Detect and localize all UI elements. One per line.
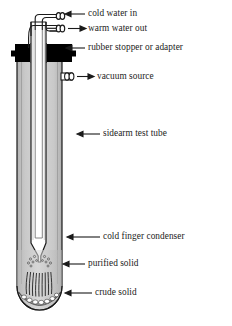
arrow-purified-solid [63,261,85,266]
arrow-vacuum-source [77,74,94,79]
label-sidearm-test-tube: sidearm test tube [103,129,167,138]
label-vacuum-source: vacuum source [97,72,154,81]
diagram-canvas: cold water in warm water out rubber stop… [0,0,232,326]
arrow-cold-finger-condenser [67,234,100,239]
label-purified-solid: purified solid [88,259,139,268]
arrow-sidearm-test-tube [77,131,100,136]
arrow-cold-water-in [65,11,85,16]
label-cold-water-in: cold water in [88,9,137,18]
label-warm-water-out: warm water out [88,24,147,33]
label-cold-finger-condenser: cold finger condenser [103,232,185,241]
arrow-warm-water-out [68,26,86,31]
warm-water-outlet-end [56,25,64,32]
cold-water-inlet-end [56,13,64,20]
label-rubber-stopper-or-adapter: rubber stopper or adapter [88,43,183,52]
arrow-rubber-stopper [66,45,85,50]
vacuum-sidearm-shape [61,73,74,80]
cold-finger-condenser-shape [31,22,46,262]
arrow-crude-solid [65,290,92,295]
label-crude-solid: crude solid [95,288,137,297]
